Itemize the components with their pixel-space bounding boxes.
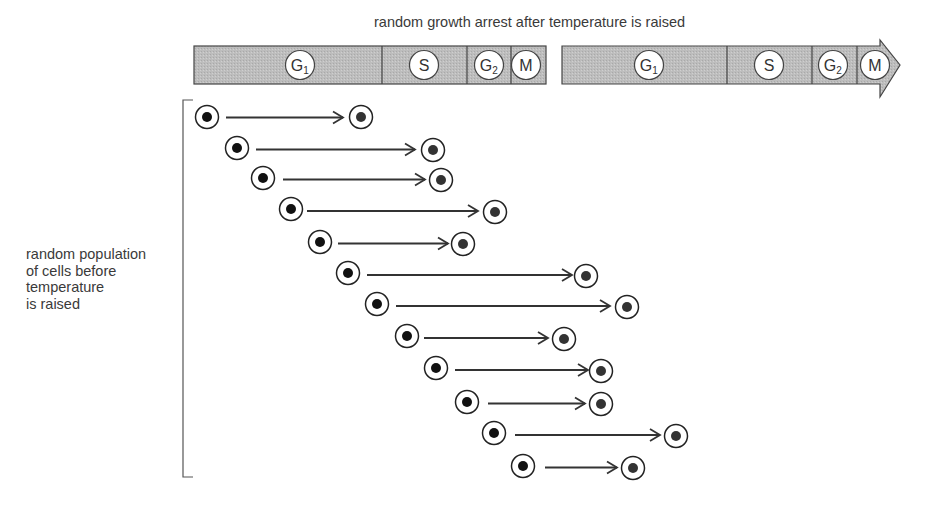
cell-row [483,422,688,448]
cell-cycle-diagram: random growth arrest after temperature i… [0,0,932,508]
phase-subscript: 2 [492,65,498,76]
diagram-canvas: G1SG2MG1SG2M [0,0,932,508]
starting-cell [396,325,419,348]
phase-label: G [480,57,492,74]
cell-nucleus [622,302,632,312]
cell-nucleus [258,173,268,183]
phase-g1: G1 [286,51,315,80]
phase-s: S [410,51,439,80]
arrested-cell [452,233,475,256]
arrested-cell [575,265,598,288]
cell-row [196,106,373,129]
phase-m: M [861,51,890,80]
phase-label: S [764,57,775,74]
phase-label: G [824,57,836,74]
bracket-line [183,100,193,477]
arrested-cell [665,425,688,448]
starting-cell [252,167,275,190]
cell-nucleus [559,334,569,344]
cell-row [425,357,613,383]
cell-row [456,391,613,416]
cell-nucleus [356,112,366,122]
cell-nucleus [315,237,325,247]
arrested-cell [590,393,613,416]
cell-row [226,137,445,162]
starting-cell [483,422,506,445]
cell-nucleus [202,112,212,122]
cell-cycle-bars: G1SG2MG1SG2M [194,40,900,97]
phase-label: M [519,57,532,74]
starting-cell [280,198,303,221]
phase-label: G [291,57,303,74]
cell-nucleus [286,204,296,214]
cell-nucleus [436,175,446,185]
starting-cell [309,231,332,254]
arrested-cell [616,296,639,319]
cell-nucleus [402,331,412,341]
phase-g2: G2 [819,51,848,80]
arrested-cell [590,360,613,383]
cell-row [280,198,507,224]
cycle-bar-1: G1SG2M [194,46,546,84]
cycle-bar-arrow-shape [562,40,900,97]
cycle-bar-2: G1SG2M [562,40,900,97]
cell-row [512,455,645,480]
starting-cell [337,262,360,285]
cell-row [309,231,475,256]
starting-cell [512,455,535,478]
phase-g1: G1 [635,51,664,80]
cell-nucleus [596,366,606,376]
cell-nucleus [431,363,441,373]
cell-nucleus [462,397,472,407]
cell-nucleus [343,268,353,278]
cell-nucleus [671,431,681,441]
arrested-cell [350,106,373,129]
phase-subscript: 2 [836,65,842,76]
cell-row [396,325,576,351]
starting-cell [456,391,479,414]
cell-rows [196,106,688,480]
starting-cell [366,293,389,316]
cell-row [366,293,639,319]
cell-nucleus [372,299,382,309]
cell-nucleus [518,461,528,471]
population-bracket [183,100,193,477]
phase-label: M [868,57,881,74]
cell-nucleus [232,143,242,153]
cell-nucleus [428,145,438,155]
cell-nucleus [596,399,606,409]
starting-cell [425,357,448,380]
cell-nucleus [581,271,591,281]
phase-subscript: 1 [652,65,658,76]
arrested-cell [553,328,576,351]
arrested-cell [622,457,645,480]
phase-m: M [512,51,541,80]
phase-label: S [419,57,430,74]
cell-nucleus [490,207,500,217]
phase-g2: G2 [475,51,504,80]
cell-row [252,167,453,192]
arrested-cell [430,169,453,192]
phase-subscript: 1 [303,65,309,76]
arrested-cell [422,139,445,162]
phase-label: G [640,57,652,74]
starting-cell [226,137,249,160]
cell-nucleus [458,239,468,249]
cell-nucleus [489,428,499,438]
cell-row [337,262,598,288]
cell-nucleus [628,463,638,473]
phase-s: S [755,51,784,80]
starting-cell [196,106,219,129]
arrested-cell [484,201,507,224]
